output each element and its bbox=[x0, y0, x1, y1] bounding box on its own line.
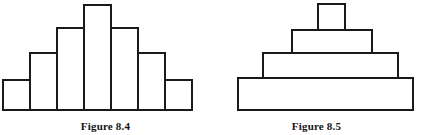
figure-8-4-drawing bbox=[0, 0, 211, 118]
pyramid-tier-upper bbox=[292, 30, 372, 53]
histogram-bar-7 bbox=[165, 80, 192, 110]
histogram-bar-4 bbox=[84, 5, 111, 110]
pyramid-tier-bottom bbox=[238, 78, 413, 110]
figure-8-5-caption: Figure 8.5 bbox=[211, 120, 422, 135]
pyramid-tier-lower bbox=[263, 53, 398, 78]
figure-8-5-block: Figure 8.5 bbox=[211, 0, 422, 135]
histogram-bar-1 bbox=[3, 80, 30, 110]
histogram-bar-3 bbox=[57, 28, 84, 110]
figure-8-5-drawing bbox=[211, 0, 422, 118]
pyramid-svg bbox=[211, 0, 422, 118]
histogram-bar-6 bbox=[138, 53, 165, 110]
histogram-svg bbox=[0, 0, 211, 118]
pyramid-tier-top bbox=[318, 4, 345, 30]
histogram-bar-2 bbox=[30, 53, 57, 110]
pyramid-tier-group bbox=[238, 4, 413, 110]
histogram-bar-5 bbox=[111, 28, 138, 110]
figure-page: Figure 8.4 Figure 8.5 bbox=[0, 0, 422, 135]
figure-8-4-block: Figure 8.4 bbox=[0, 0, 211, 135]
histogram-bar-group bbox=[3, 5, 192, 110]
figure-8-4-caption: Figure 8.4 bbox=[0, 120, 211, 135]
